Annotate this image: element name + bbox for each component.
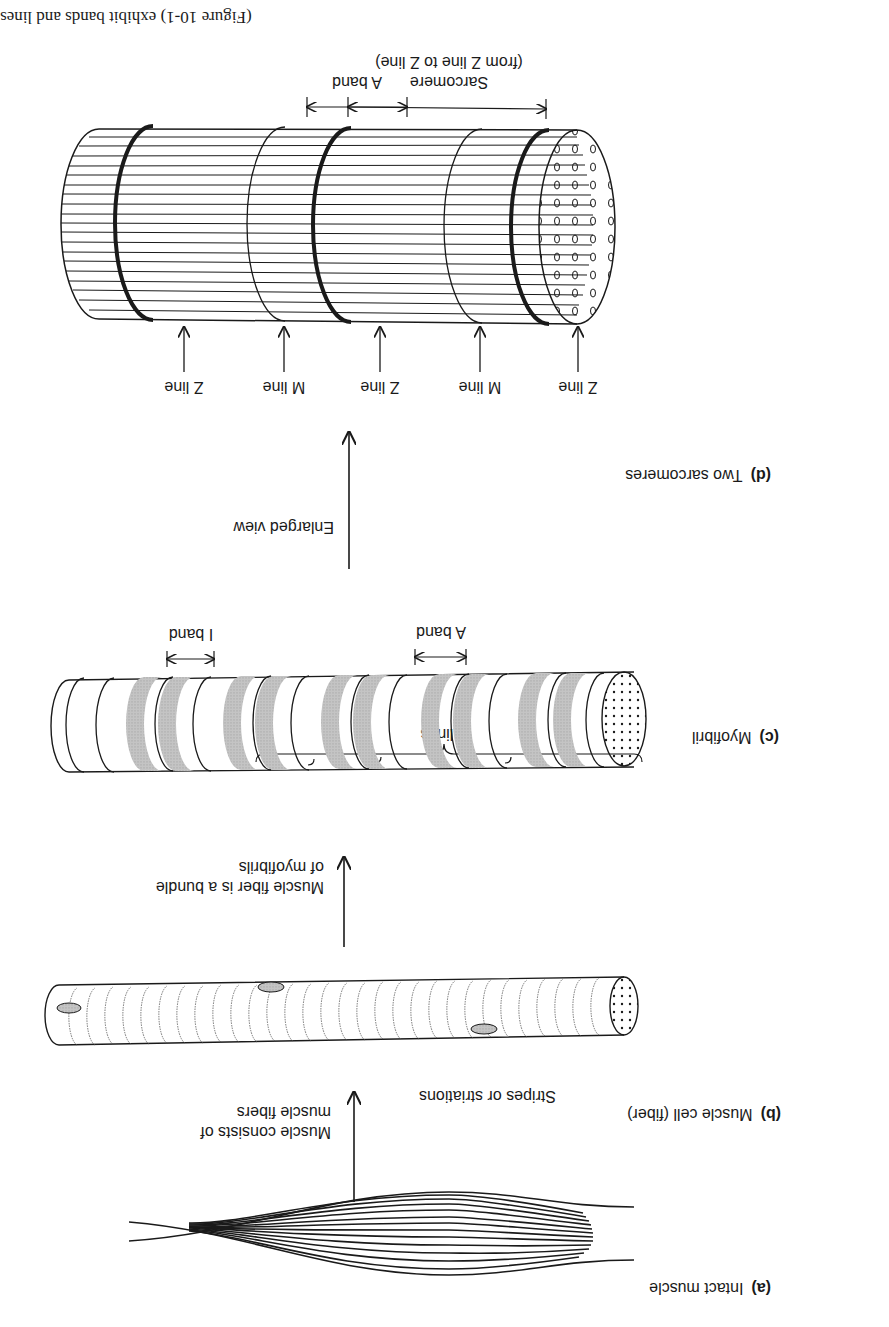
transition-b-c-line2: of myofibrils xyxy=(239,859,324,876)
transition-a-b-line1: Muscle consists of xyxy=(200,1124,331,1141)
transition-b-c-line1: Muscle fiber is a bundle xyxy=(156,879,324,896)
svg-text:(d) Two sarcomeres: (d) Two sarcomeres xyxy=(625,467,771,484)
i-band-label: I band xyxy=(169,626,213,643)
muscle-fiber-cylinder xyxy=(45,977,638,1045)
nucleus-icon xyxy=(258,982,284,992)
panel-b-letter: (b) xyxy=(761,1106,781,1123)
sarcomere-cylinder xyxy=(61,126,615,324)
z-line-label: Z line xyxy=(360,379,399,396)
a-band-label-d: A band xyxy=(332,74,382,91)
sarcomere-sublabel: (from Z line to Z line) xyxy=(375,54,523,71)
line-labels: Z line M line Z line M line Z line xyxy=(164,327,597,396)
caption-fragment: (Figure 10-1) exhibit bands and lines xyxy=(0,8,252,27)
myofilament-lines xyxy=(61,137,593,315)
transition-a-to-b: Muscle consists of muscle fibers xyxy=(200,1092,354,1202)
panel-d-title: Two sarcomeres xyxy=(625,467,742,484)
panel-b-muscle-cell: (b) Muscle cell (fiber) Stripes or stria… xyxy=(45,977,781,1123)
a-band-indicator: A band xyxy=(415,624,466,665)
transition-c-d-line1: Enlarged view xyxy=(233,519,334,536)
transition-c-to-d: Enlarged view xyxy=(233,432,349,569)
muscle-structure-figure: (Figure 10-1) exhibit bands and lines (a… xyxy=(0,0,889,1327)
myofibril-cylinder xyxy=(51,672,646,772)
m-line-label: M line xyxy=(263,379,306,396)
panel-c-letter: (c) xyxy=(759,729,779,746)
muscle-belly-drawing xyxy=(129,1192,634,1275)
z-line-label: Z line xyxy=(558,379,597,396)
panel-a-intact-muscle: (a) Intact muscle xyxy=(129,1192,771,1297)
m-line-label: M line xyxy=(459,379,502,396)
panel-b-title: Muscle cell (fiber) xyxy=(627,1106,752,1123)
i-band-indicator: I band xyxy=(167,626,214,667)
nucleus-icon xyxy=(471,1024,497,1034)
transition-b-to-c: Muscle fiber is a bundle of myofibrils xyxy=(156,857,344,947)
panel-a-letter: (a) xyxy=(751,1280,771,1297)
nucleus-icon xyxy=(57,1003,81,1013)
transition-a-b-line2: muscle fibers xyxy=(237,1104,331,1121)
panel-d-letter: (d) xyxy=(751,467,771,484)
sarcomere-label: Sarcomere xyxy=(410,74,488,91)
panel-c-myofibril: (c) Myofibril Z lines xyxy=(51,624,779,772)
panel-a-title: Intact muscle xyxy=(649,1280,743,1297)
svg-text:(a) Intact muscle: (a) Intact muscle xyxy=(649,1280,771,1297)
panel-c-title: Myofibril xyxy=(692,729,752,746)
svg-text:(b) Muscle cell (fiber): (b) Muscle cell (fiber) xyxy=(627,1106,781,1123)
svg-text:(c) Myofibril: (c) Myofibril xyxy=(692,729,779,746)
stripes-label: Stripes or striations xyxy=(419,1088,556,1105)
a-band-indicator: A band xyxy=(307,74,407,117)
panel-d-two-sarcomeres: (d) Two sarcomeres Z line M line Z line … xyxy=(61,54,771,484)
a-band-label-c: A band xyxy=(416,624,466,641)
z-line-label: Z line xyxy=(164,379,203,396)
